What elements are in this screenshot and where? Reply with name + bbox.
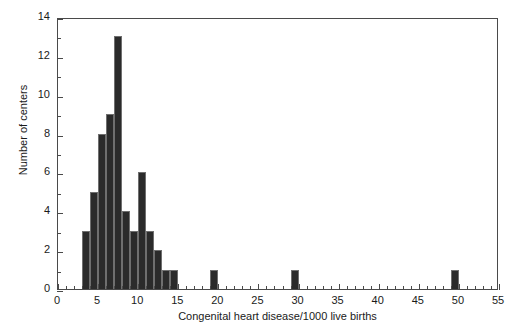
x-major-tick [178, 284, 179, 290]
x-minor-tick [250, 286, 251, 290]
x-major-tick [379, 284, 380, 290]
x-major-tick [299, 284, 300, 290]
x-tick-label: 45 [398, 294, 438, 306]
x-minor-tick [234, 286, 235, 290]
x-minor-tick [363, 286, 364, 290]
x-minor-tick [82, 286, 83, 290]
y-major-tick [57, 291, 63, 292]
x-major-tick [499, 284, 500, 290]
x-tick-label: 0 [37, 294, 77, 306]
histogram-bar [130, 231, 138, 289]
y-major-tick [57, 252, 63, 253]
x-minor-tick [323, 286, 324, 290]
x-major-tick [218, 284, 219, 290]
histogram-bar [146, 231, 154, 289]
y-minor-tick [57, 194, 61, 195]
x-minor-tick [194, 286, 195, 290]
histogram-bar [138, 172, 146, 289]
x-minor-tick [66, 286, 67, 290]
histogram-figure: 0510152025303540455055 02468101214 Conge… [0, 0, 525, 330]
x-minor-tick [106, 286, 107, 290]
y-minor-tick [57, 272, 61, 273]
histogram-bar [106, 114, 114, 289]
y-axis-title: Number of centers [17, 60, 29, 200]
x-minor-tick [130, 286, 131, 290]
y-tick-label: 4 [30, 204, 50, 216]
histogram-bar [98, 134, 106, 289]
x-minor-tick [403, 286, 404, 290]
x-tick-label: 35 [318, 294, 358, 306]
x-minor-tick [186, 286, 187, 290]
y-major-tick [57, 136, 63, 137]
x-major-tick [419, 284, 420, 290]
x-major-tick [98, 284, 99, 290]
x-minor-tick [210, 286, 211, 290]
x-minor-tick [146, 286, 147, 290]
x-minor-tick [355, 286, 356, 290]
y-major-tick [57, 174, 63, 175]
x-minor-tick [283, 286, 284, 290]
x-major-tick [138, 284, 139, 290]
x-minor-tick [114, 286, 115, 290]
x-minor-tick [242, 286, 243, 290]
x-tick-label: 50 [438, 294, 478, 306]
x-minor-tick [274, 286, 275, 290]
y-tick-label: 2 [30, 243, 50, 255]
histogram-bar [114, 36, 122, 289]
x-tick-label: 25 [237, 294, 277, 306]
x-minor-tick [122, 286, 123, 290]
x-minor-tick [154, 286, 155, 290]
x-minor-tick [491, 286, 492, 290]
x-minor-tick [387, 286, 388, 290]
x-minor-tick [411, 286, 412, 290]
x-minor-tick [90, 286, 91, 290]
bar-series [58, 19, 497, 289]
x-major-tick [339, 284, 340, 290]
x-tick-label: 20 [197, 294, 237, 306]
x-tick-label: 30 [278, 294, 318, 306]
y-tick-label: 12 [30, 49, 50, 61]
y-major-tick [57, 97, 63, 98]
histogram-bar [162, 270, 170, 289]
x-minor-tick [427, 286, 428, 290]
histogram-bar [291, 270, 299, 289]
y-tick-label: 14 [30, 10, 50, 22]
x-minor-tick [347, 286, 348, 290]
y-major-tick [57, 58, 63, 59]
histogram-bar [122, 211, 130, 289]
y-tick-label: 8 [30, 127, 50, 139]
y-major-tick [57, 213, 63, 214]
x-axis-title: Congenital heart disease/1000 live birth… [57, 310, 498, 322]
y-tick-label: 10 [30, 88, 50, 100]
x-minor-tick [475, 286, 476, 290]
y-minor-tick [57, 233, 61, 234]
x-minor-tick [291, 286, 292, 290]
histogram-bar [170, 270, 178, 289]
x-major-tick [258, 284, 259, 290]
x-tick-label: 40 [358, 294, 398, 306]
plot-area [57, 18, 498, 290]
histogram-bar [90, 192, 98, 289]
x-minor-tick [202, 286, 203, 290]
x-tick-label: 15 [157, 294, 197, 306]
x-minor-tick [435, 286, 436, 290]
y-minor-tick [57, 155, 61, 156]
y-major-tick [57, 19, 63, 20]
y-tick-label: 0 [30, 282, 50, 294]
histogram-bar [154, 250, 162, 289]
x-tick-label: 5 [77, 294, 117, 306]
x-minor-tick [315, 286, 316, 290]
x-minor-tick [371, 286, 372, 290]
x-major-tick [58, 284, 59, 290]
x-minor-tick [467, 286, 468, 290]
x-minor-tick [266, 286, 267, 290]
x-tick-label: 10 [117, 294, 157, 306]
x-minor-tick [162, 286, 163, 290]
x-minor-tick [443, 286, 444, 290]
x-minor-tick [451, 286, 452, 290]
histogram-bar [451, 270, 459, 289]
x-minor-tick [331, 286, 332, 290]
x-minor-tick [483, 286, 484, 290]
x-minor-tick [170, 286, 171, 290]
x-major-tick [459, 284, 460, 290]
